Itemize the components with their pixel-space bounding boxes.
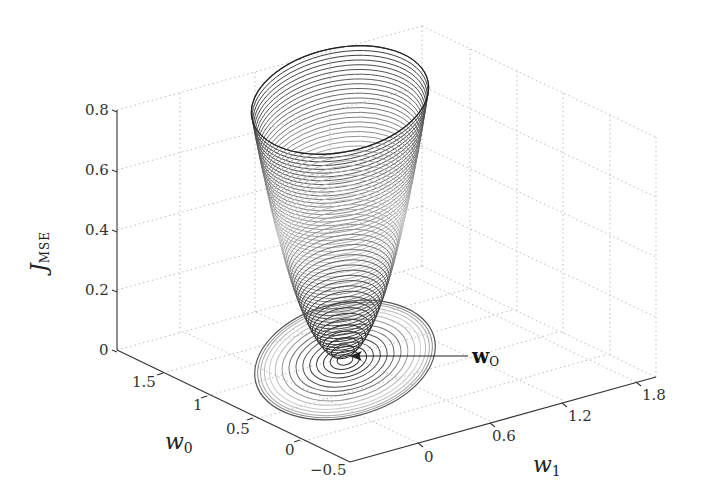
z-tick-label: 0.4 <box>85 223 109 238</box>
z-tick-label: 0 <box>99 343 109 358</box>
w1-label-sub: 1 <box>552 463 561 479</box>
w0-tick-label: 1 <box>193 398 203 413</box>
w0-tick-label: 0.5 <box>226 422 250 437</box>
optimum-label-sub: O <box>489 355 499 369</box>
cost-surface <box>241 30 439 360</box>
optimum-label: wO <box>472 346 499 368</box>
w1-tick-label: 1.8 <box>642 388 666 403</box>
w1-label-main: w <box>533 452 552 477</box>
surface-plot <box>0 0 703 504</box>
w1-tick-label: 1.2 <box>568 409 592 424</box>
z-label-sub: MSE <box>38 231 52 263</box>
w1-axis-label: w1 <box>533 454 561 478</box>
w0-axis <box>117 350 350 462</box>
w1-axis <box>350 377 656 462</box>
z-tick-label: 0.6 <box>85 163 109 178</box>
optimum-label-main: w <box>472 344 489 368</box>
w1-tick-label: 0.6 <box>492 429 516 444</box>
w0-label-sub: 0 <box>184 440 193 456</box>
optimum-arrow <box>350 351 468 361</box>
w0-tick-label: 0 <box>285 443 295 458</box>
w0-label-main: w <box>165 429 184 454</box>
z-axis-label: JMSE <box>28 231 51 272</box>
w0-axis-label: w0 <box>165 431 193 455</box>
z-label-main: J <box>26 263 51 272</box>
z-tick-label: 0.8 <box>85 103 109 118</box>
w0-tick-label: 1.5 <box>132 375 156 390</box>
w0-tick-label: −0.5 <box>310 463 346 478</box>
floor-contours <box>242 282 448 437</box>
z-tick-label: 0.2 <box>85 283 109 298</box>
w1-tick-label: 0 <box>424 450 434 465</box>
